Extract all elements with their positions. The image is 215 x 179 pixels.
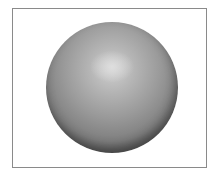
shaded-sphere (46, 22, 178, 153)
